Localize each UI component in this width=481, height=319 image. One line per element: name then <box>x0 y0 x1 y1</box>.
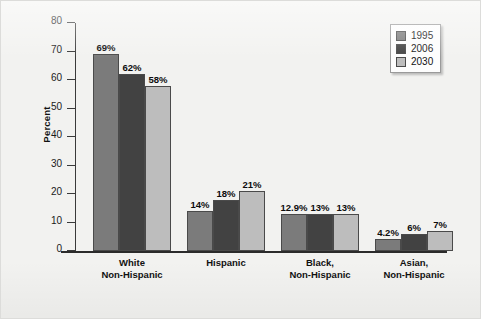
legend-color-swatch <box>396 31 406 41</box>
y-axis-tick: 50 <box>67 108 75 109</box>
bar[interactable]: 21% <box>239 191 265 251</box>
bar-value-label: 13% <box>336 202 355 213</box>
y-axis-tick-label: 10 <box>51 215 62 226</box>
y-axis-title: Percent <box>41 90 52 160</box>
y-axis-tick-label: 0 <box>56 243 62 254</box>
legend-color-swatch <box>396 44 406 54</box>
x-axis-category-line: Non-Hispanic <box>72 269 192 281</box>
legend-item-label: 1995 <box>411 30 433 41</box>
legend-item-label: 2030 <box>411 56 433 67</box>
x-axis-line <box>61 251 447 253</box>
legend-item[interactable]: 2006 <box>396 42 433 55</box>
y-axis-line <box>75 23 76 251</box>
bar-value-label: 18% <box>216 188 235 199</box>
legend-item-label: 2006 <box>411 43 433 54</box>
bar[interactable]: 18% <box>213 200 239 251</box>
bar[interactable]: 69% <box>93 54 119 251</box>
bar[interactable]: 13% <box>307 214 333 251</box>
y-axis-tick: 80 <box>67 22 75 23</box>
y-axis-tick-label: 70 <box>51 44 62 55</box>
bar[interactable]: 7% <box>427 231 453 251</box>
bar[interactable]: 13% <box>333 214 359 251</box>
y-axis-tick: 20 <box>67 193 75 194</box>
bar-value-label: 12.9% <box>281 202 308 213</box>
bar-value-label: 13% <box>310 202 329 213</box>
y-axis-tick-label: 40 <box>51 129 62 140</box>
y-axis-tick: 10 <box>67 222 75 223</box>
chart-legend: 199520062030 <box>390 24 441 73</box>
bar-group: 12.9%13%13% <box>281 23 359 251</box>
bar-group: 69%62%58% <box>93 23 171 251</box>
bar-value-label: 14% <box>190 199 209 210</box>
y-axis-tick: 0 <box>67 250 75 251</box>
bar-group: 14%18%21% <box>187 23 265 251</box>
x-axis-category-line: Asian, <box>354 257 474 269</box>
legend-item[interactable]: 1995 <box>396 29 433 42</box>
bar[interactable]: 4.2% <box>375 239 401 251</box>
y-axis-tick-label: 60 <box>51 72 62 83</box>
y-axis-tick: 40 <box>67 136 75 137</box>
bar-value-label: 62% <box>122 62 141 73</box>
bar-value-label: 4.2% <box>377 227 399 238</box>
bar[interactable]: 6% <box>401 234 427 251</box>
bar-value-label: 7% <box>433 219 447 230</box>
bar[interactable]: 58% <box>145 86 171 251</box>
y-axis-tick: 70 <box>67 51 75 52</box>
bar-value-label: 58% <box>148 74 167 85</box>
y-axis-tick-label: 30 <box>51 158 62 169</box>
bar-value-label: 21% <box>242 179 261 190</box>
legend-item[interactable]: 2030 <box>396 55 433 68</box>
bar-chart-figure: Percent 01020304050607080 69%62%58%14%18… <box>0 0 481 319</box>
y-axis-tick: 30 <box>67 165 75 166</box>
y-axis-tick-label: 20 <box>51 186 62 197</box>
bar[interactable]: 14% <box>187 211 213 251</box>
legend-color-swatch <box>396 57 406 67</box>
y-axis-tick-label: 50 <box>51 101 62 112</box>
x-axis-category-label: Asian,Non-Hispanic <box>354 257 474 281</box>
bar[interactable]: 62% <box>119 74 145 251</box>
bar[interactable]: 12.9% <box>281 214 307 251</box>
bar-value-label: 69% <box>96 42 115 53</box>
bar-value-label: 6% <box>407 222 421 233</box>
y-axis-tick: 60 <box>67 79 75 80</box>
x-axis-category-line: Non-Hispanic <box>354 269 474 281</box>
y-axis-tick-label: 80 <box>51 15 62 26</box>
